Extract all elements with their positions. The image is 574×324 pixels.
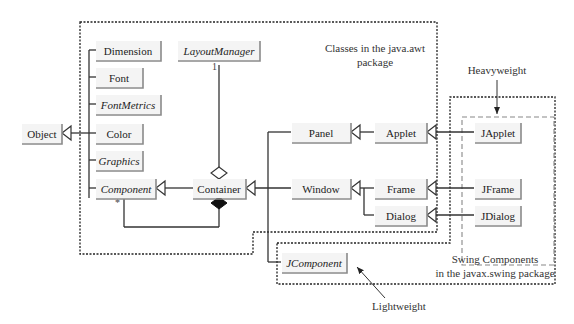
class-panel[interactable]: Panel bbox=[292, 123, 351, 143]
class-dimension[interactable]: Dimension bbox=[96, 41, 161, 61]
class-label: Component bbox=[101, 183, 153, 195]
class-dialog[interactable]: Dialog bbox=[375, 206, 427, 226]
applet-inheritance-arrow bbox=[427, 125, 436, 139]
class-font[interactable]: Font bbox=[96, 68, 143, 88]
window-inheritance-arrow bbox=[351, 181, 360, 195]
class-label: JApplet bbox=[481, 127, 515, 139]
class-label: Container bbox=[197, 183, 241, 195]
class-label: Object bbox=[27, 128, 56, 140]
class-label: Color bbox=[106, 128, 131, 140]
class-jcomponent[interactable]: JComponent bbox=[282, 253, 347, 273]
aggregation-diamond bbox=[211, 167, 227, 179]
lightweight-annotation: Lightweight bbox=[372, 300, 426, 312]
swing-package-label-2: in the javax.swing package bbox=[435, 267, 554, 279]
class-graphics[interactable]: Graphics bbox=[96, 151, 143, 171]
class-frame[interactable]: Frame bbox=[375, 179, 427, 199]
class-jframe[interactable]: JFrame bbox=[475, 179, 521, 199]
class-label: FontMetrics bbox=[100, 99, 155, 111]
class-label: Frame bbox=[387, 183, 415, 195]
swing-package-label-1: Swing Components bbox=[452, 253, 538, 265]
awt-package-label-1: Classes in the java.awt bbox=[325, 42, 425, 54]
class-applet[interactable]: Applet bbox=[375, 123, 427, 143]
heavyweight-annotation: Heavyweight bbox=[468, 64, 527, 76]
container-inheritance-arrow bbox=[246, 181, 255, 195]
object-inheritance-arrow bbox=[62, 126, 71, 140]
lightweight-arrow bbox=[357, 267, 385, 298]
class-label: JFrame bbox=[482, 183, 515, 195]
class-label: Window bbox=[302, 183, 339, 195]
class-label: Dimension bbox=[104, 45, 153, 57]
class-jdialog[interactable]: JDialog bbox=[475, 206, 521, 226]
class-component[interactable]: Component bbox=[96, 179, 156, 199]
class-window[interactable]: Window bbox=[292, 179, 351, 199]
component-inheritance-arrow bbox=[156, 181, 165, 195]
class-japplet[interactable]: JApplet bbox=[475, 123, 521, 143]
class-layoutmanager[interactable]: LayoutManager bbox=[178, 41, 260, 61]
class-container[interactable]: Container bbox=[193, 179, 246, 199]
class-label: Graphics bbox=[99, 155, 140, 167]
dialog-inheritance-arrow bbox=[427, 208, 436, 222]
panel-inheritance-arrow bbox=[351, 125, 360, 139]
class-label: JDialog bbox=[481, 210, 516, 222]
class-object[interactable]: Object bbox=[22, 124, 62, 144]
layoutmanager-multiplicity: 1 bbox=[212, 61, 217, 72]
class-label: Dialog bbox=[386, 210, 416, 222]
awt-package-label-2: package bbox=[357, 56, 393, 68]
class-label: Applet bbox=[386, 127, 416, 139]
awt-swing-class-diagram: Classes in the java.awt package Swing Co… bbox=[0, 0, 574, 324]
class-label: LayoutManager bbox=[183, 45, 256, 57]
class-label: Panel bbox=[309, 127, 333, 139]
frame-inheritance-arrow bbox=[427, 181, 436, 195]
class-color[interactable]: Color bbox=[96, 124, 143, 144]
class-label: Font bbox=[109, 72, 129, 84]
class-fontmetrics[interactable]: FontMetrics bbox=[96, 95, 161, 115]
class-label: JComponent bbox=[286, 257, 343, 269]
